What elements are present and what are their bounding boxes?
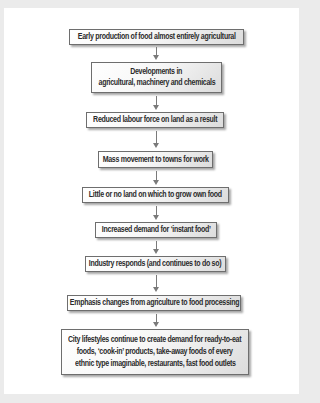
arrow-down-icon: [153, 241, 160, 254]
step-4-text: Mass movement to towns for work: [102, 155, 208, 165]
step-9-text-line-1: City lifestyles continue to create deman…: [68, 334, 241, 346]
step-1-box: Early production of food almost entirely…: [69, 29, 244, 45]
step-9-text-line-3: ethnic type imaginable, restaurants, fas…: [75, 358, 236, 370]
step-9-box: City lifestyles continue to create deman…: [61, 329, 249, 375]
step-9-text-line-2: foods, ‘cook-in’ products, take-away foo…: [77, 346, 233, 358]
step-5-box: Little or no land on which to grow own f…: [82, 187, 229, 203]
arrow-down-icon: [153, 47, 160, 60]
step-2-text-line-2: agricultural, machinery and chemicals: [98, 78, 215, 88]
step-6-box: Increased demand for ‘instant food’: [95, 222, 217, 238]
arrow-down-icon: [153, 314, 160, 327]
arrow-down-icon: [153, 131, 160, 148]
step-3-text: Reduced labour force on land as a result: [93, 115, 217, 125]
arrow-down-icon: [153, 275, 160, 292]
arrow-down-icon: [153, 206, 160, 220]
step-7-box: Industry responds (and continues to do s…: [85, 256, 226, 272]
arrow-down-icon: [153, 171, 160, 185]
step-7-text: Industry responds (and continues to do s…: [89, 259, 221, 269]
step-2-box: Developments in agricultural, machinery …: [91, 62, 222, 93]
step-3-box: Reduced labour force on land as a result: [86, 112, 224, 128]
step-6-text: Increased demand for ‘instant food’: [102, 225, 211, 235]
arrow-down-icon: [153, 96, 160, 110]
step-8-text: Emphasis changes from agriculture to foo…: [69, 298, 238, 308]
step-1-text: Early production of food almost entirely…: [78, 32, 236, 42]
step-8-box: Emphasis changes from agriculture to foo…: [67, 295, 241, 311]
step-2-text-line-1: Developments in: [131, 67, 183, 77]
step-4-box: Mass movement to towns for work: [98, 151, 213, 168]
step-5-text: Little or no land on which to grow own f…: [89, 190, 222, 200]
